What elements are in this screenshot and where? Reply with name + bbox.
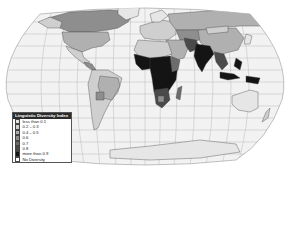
legend-item: No Diversity <box>13 157 71 162</box>
legend-label: No Diversity <box>22 157 45 162</box>
south-africa-inner <box>158 96 164 102</box>
map-legend: Linguistic Diversity Index less than 0.1… <box>12 112 72 163</box>
legend-swatch <box>15 157 20 162</box>
bolivia <box>96 92 104 100</box>
